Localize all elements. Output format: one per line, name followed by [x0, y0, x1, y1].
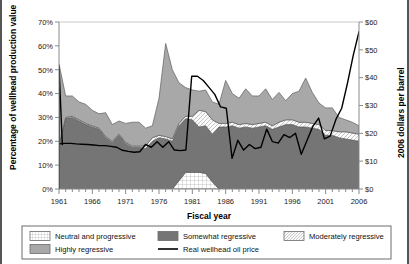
- chart-figure: Percentage of wellhead production value …: [0, 0, 409, 264]
- x-tick-label: 1976: [151, 197, 168, 206]
- chart-legend: Neutral and progressiveSomewhat regressi…: [22, 226, 391, 259]
- x-tick-label: 1961: [51, 197, 68, 206]
- y2-tick-label: $30: [365, 101, 378, 110]
- x-tick-label: 1971: [117, 197, 134, 206]
- legend-label: Moderately regressive: [309, 232, 384, 241]
- legend-somewhat-swatch: [158, 232, 178, 241]
- y-tick-label: 60%: [38, 42, 53, 51]
- legend-label: Neutral and progressive: [55, 232, 136, 241]
- x-tick-label: 1996: [284, 197, 301, 206]
- x-tick-label: 1981: [184, 197, 201, 206]
- legend-label: Real wellhead oil price: [183, 245, 259, 254]
- x-tick-label: 2006: [351, 197, 368, 206]
- wellhead-production-chart: Percentage of wellhead production value …: [2, 0, 409, 264]
- y2-tick-label: $60: [365, 18, 378, 27]
- y-tick-label: 0%: [42, 185, 53, 194]
- x-axis-title: Fiscal year: [187, 211, 232, 221]
- legend-item-neutral[interactable]: Neutral and progressive: [30, 232, 136, 242]
- x-tick-label: 1966: [84, 197, 101, 206]
- legend-item-highly[interactable]: Highly regressive: [30, 245, 113, 255]
- y-tick-label: 30%: [38, 113, 53, 122]
- y2-tick-label: $40: [365, 73, 378, 82]
- x-tick-label: 2001: [317, 197, 334, 206]
- y-tick-label: 50%: [38, 66, 53, 75]
- y-axis-title: Percentage of wellhead production value: [8, 4, 18, 170]
- y-tick-label: 40%: [38, 89, 53, 98]
- legend-neutral-swatch: [30, 232, 50, 241]
- legend-moderately-swatch: [284, 232, 304, 241]
- y2-tick-label: $10: [365, 157, 378, 166]
- legend-box: [22, 226, 391, 259]
- legend-item-moderately[interactable]: Moderately regressive: [284, 232, 384, 242]
- plot-area: [59, 22, 359, 189]
- legend-label: Somewhat regressive: [183, 232, 256, 241]
- x-tick-label: 1991: [251, 197, 268, 206]
- y-tick-label: 20%: [38, 137, 53, 146]
- legend-item-somewhat[interactable]: Somewhat regressive: [158, 232, 256, 242]
- y2-tick-label: $20: [365, 129, 378, 138]
- y-tick-label: 10%: [38, 161, 53, 170]
- y2-tick-label: $0: [365, 185, 373, 194]
- legend-label: Highly regressive: [55, 245, 113, 254]
- x-tick-label: 1986: [217, 197, 234, 206]
- y2-axis-title: 2006 dollars per barrel: [396, 67, 406, 158]
- y2-tick-label: $50: [365, 46, 378, 55]
- legend-highly-swatch: [30, 245, 50, 254]
- y-tick-label: 70%: [38, 18, 53, 27]
